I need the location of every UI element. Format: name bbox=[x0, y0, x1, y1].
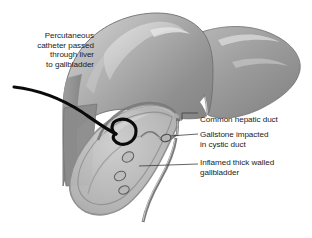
label-common-hepatic-duct: Common hepatic duct bbox=[200, 115, 278, 125]
label-gallstone-impacted: Gallstone impacted in cystic duct bbox=[200, 130, 268, 149]
label-inflamed-gallbladder: Inflamed thick walled gallbladder bbox=[200, 158, 274, 177]
illustration-canvas: Percutaneous catheter passed through liv… bbox=[0, 0, 312, 238]
label-percutaneous-catheter: Percutaneous catheter passed through liv… bbox=[6, 31, 94, 69]
